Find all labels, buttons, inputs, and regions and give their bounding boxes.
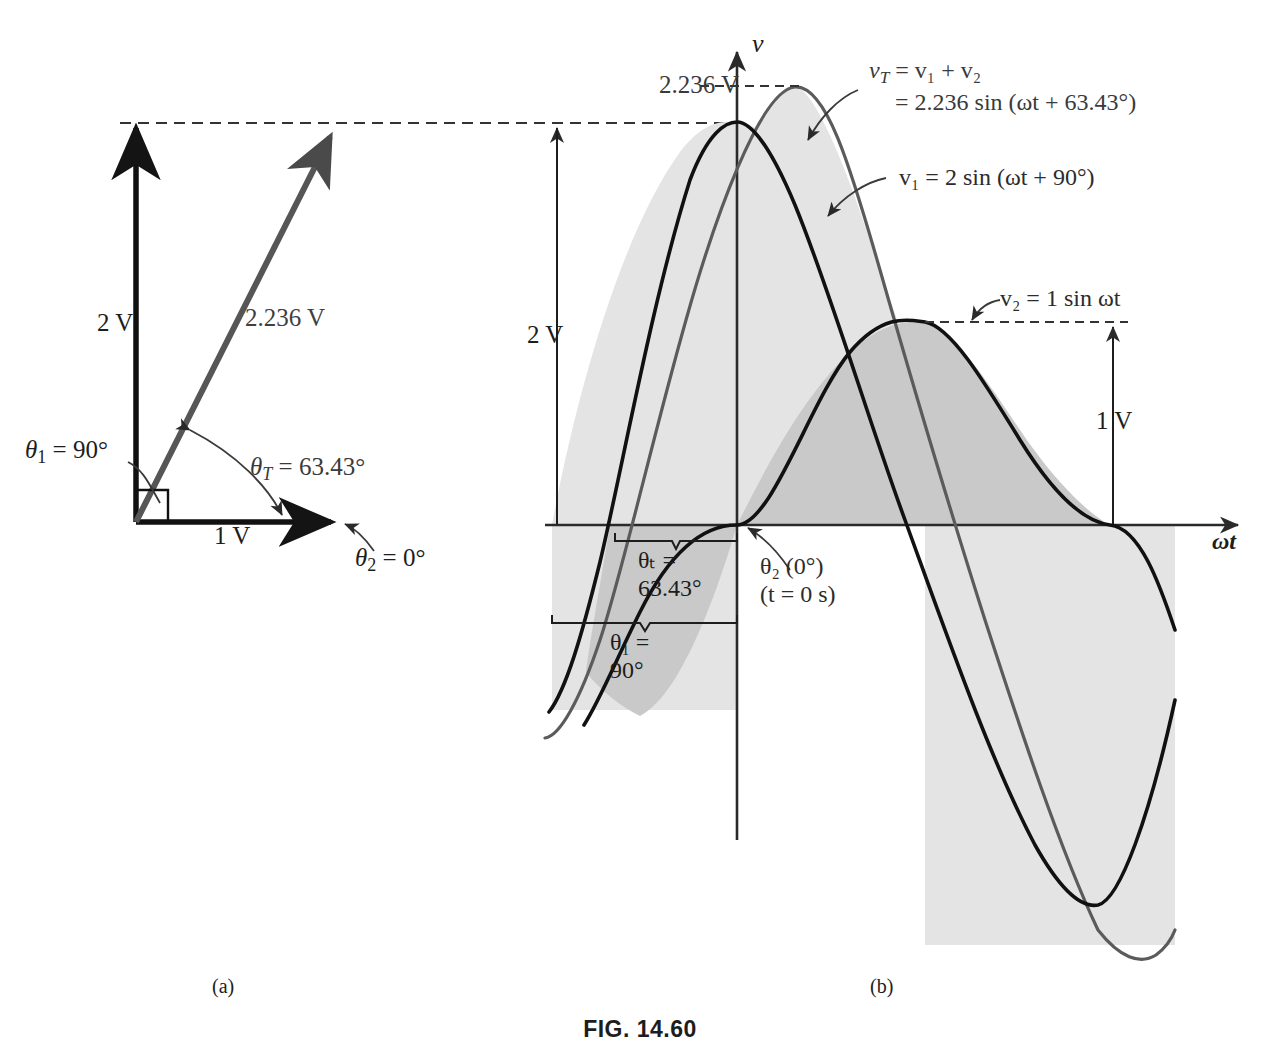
figure-14-60: 2 V 1 V 2.236 V θ1 = 90° θ2 = 0° θT = 63… (0, 0, 1280, 1052)
thetaT-brace-line2: 63.43° (638, 574, 702, 602)
origin-theta2-line1: θ₂ (0°) (760, 552, 836, 580)
theta2-value: = 0° (376, 544, 425, 571)
theta1-brace-line1: θ₁ = (610, 628, 649, 656)
phasor-v1-magnitude-label: 2 V (97, 308, 133, 338)
theta1-brace-label: θ₁ = 90° (610, 628, 649, 685)
vt-equation-line1: vT = v₁ + v₂ (869, 56, 1136, 88)
thetaT-symbol: θ (250, 453, 262, 480)
panel-a-tag: (a) (212, 975, 234, 999)
thetaT-brace-line1: θₜ = (638, 546, 702, 574)
phasor-theta2-label: θ2 = 0° (355, 543, 425, 576)
origin-theta2-line2: (t = 0 s) (760, 580, 836, 608)
panel-b-tag: (b) (870, 975, 893, 999)
v2-label-leader (972, 300, 1000, 320)
origin-theta2-label: θ₂ (0°) (t = 0 s) (760, 552, 836, 609)
theta1-symbol: θ (25, 436, 37, 463)
theta1-value: = 90° (46, 436, 108, 463)
phasor-v2-magnitude-label: 1 V (214, 521, 250, 551)
peak-2236v-label: 2.236 V (659, 70, 739, 100)
theta1-subscript: 1 (37, 447, 46, 467)
vt-symbol: v (869, 57, 880, 83)
v1-equation-label: v₁ = 2 sin (ωt + 90°) (899, 163, 1095, 191)
vt-subscript: T (880, 68, 890, 87)
thetaT-value: = 63.43° (272, 453, 365, 480)
phasor-vt-magnitude-label: 2.236 V (245, 303, 325, 333)
waveform-x-axis-label: ωt (1212, 527, 1236, 555)
thetaT-subscript: T (262, 464, 272, 484)
waveform-y-axis-label: v (752, 29, 764, 60)
phasor-theta1-label: θ1 = 90° (25, 435, 108, 468)
theta1-brace-line2: 90° (610, 656, 649, 684)
thetaT-brace-label: θₜ = 63.43° (638, 546, 702, 603)
vt-equation-rest: = v₁ + v₂ (889, 57, 981, 83)
theta2-subscript: 2 (367, 555, 376, 575)
vt-equation-label: vT = v₁ + v₂ = 2.236 sin (ωt + 63.43°) (869, 56, 1136, 117)
theta2-symbol: θ (355, 544, 367, 571)
phasor-thetaT-label: θT = 63.43° (250, 452, 365, 485)
amplitude-1v-label: 1 V (1096, 406, 1132, 436)
vt-equation-line2: = 2.236 sin (ωt + 63.43°) (895, 88, 1136, 116)
waveform-plot-group (545, 52, 1238, 959)
figure-canvas (0, 0, 1280, 1052)
amplitude-2v-label: 2 V (527, 320, 563, 350)
figure-caption: FIG. 14.60 (0, 1016, 1280, 1043)
v2-equation-label: v₂ = 1 sin ωt (1000, 284, 1120, 312)
